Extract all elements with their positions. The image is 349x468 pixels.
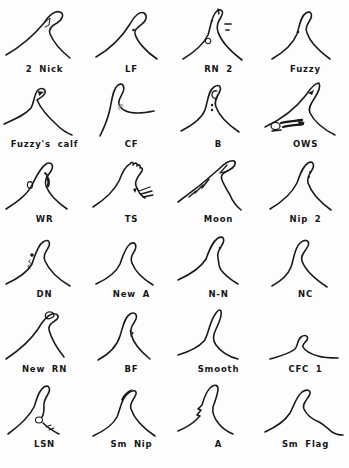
fin-cell: Fuzzy — [262, 4, 349, 79]
fin-label: N-N — [208, 289, 228, 299]
fin-sketch-sm-flag — [262, 379, 349, 439]
fin-cell: CFC 1 — [262, 304, 349, 379]
fin-sketch-bf — [88, 304, 175, 364]
fin-sketch-n-n — [175, 229, 262, 289]
fin-sketch-b — [175, 79, 262, 139]
fin-cell: Sm Nip — [88, 379, 175, 454]
fin-label: Fuzzy — [290, 64, 321, 74]
fin-grid: 2 Nick LF RN 2 Fuzzy Fuzzy's calf CF B O… — [0, 0, 349, 454]
fin-label: OWS — [293, 139, 318, 149]
fin-cell: Nip 2 — [262, 154, 349, 229]
fin-label: New A — [113, 289, 150, 299]
fin-label: LF — [125, 64, 138, 74]
fin-sketch-fuzzy — [262, 4, 349, 64]
fin-sketch-lf — [88, 4, 175, 64]
fin-sketch-sm-nip — [88, 379, 175, 439]
fin-label: NC — [298, 289, 313, 299]
fin-label: Smooth — [198, 364, 240, 374]
fin-cell: Fuzzy's calf — [1, 79, 88, 154]
fin-sketch-new-rn — [1, 304, 88, 364]
fin-label: Sm Nip — [111, 439, 153, 449]
fin-sketch-moon — [175, 154, 262, 214]
fin-sketch-a — [175, 379, 262, 439]
fin-label: Sm Flag — [282, 439, 329, 449]
fin-label: New RN — [22, 364, 67, 374]
fin-cell: A — [175, 379, 262, 454]
fin-sketch-new-a — [88, 229, 175, 289]
fin-cell: RN 2 — [175, 4, 262, 79]
fin-sketch-smooth — [175, 304, 262, 364]
fin-label: CFC 1 — [288, 364, 322, 374]
fin-cell: DN — [1, 229, 88, 304]
fin-catalog-figure: 2 Nick LF RN 2 Fuzzy Fuzzy's calf CF B O… — [0, 0, 349, 468]
fin-cell: Sm Flag — [262, 379, 349, 454]
fin-cell: OWS — [262, 79, 349, 154]
fin-cell: New A — [88, 229, 175, 304]
fin-label: TS — [125, 214, 139, 224]
fin-label: Fuzzy's calf — [11, 139, 78, 149]
fin-cell: N-N — [175, 229, 262, 304]
fin-sketch-lsn — [1, 379, 88, 439]
fin-cell: NC — [262, 229, 349, 304]
fin-sketch-nip-2 — [262, 154, 349, 214]
fin-cell: WR — [1, 154, 88, 229]
fin-sketch-ows — [262, 79, 349, 139]
fin-label: LSN — [34, 439, 55, 449]
fin-label: Moon — [204, 214, 233, 224]
fin-label: 2 Nick — [26, 64, 63, 74]
fin-sketch-cfc-1 — [262, 304, 349, 364]
fin-label: WR — [36, 214, 54, 224]
fin-cell: CF — [88, 79, 175, 154]
fin-sketch-wr — [1, 154, 88, 214]
fin-cell: New RN — [1, 304, 88, 379]
fin-label: B — [215, 139, 222, 149]
fin-sketch-fuzzys-calf — [1, 79, 88, 139]
fin-label: Nip 2 — [290, 214, 322, 224]
fin-cell: Moon — [175, 154, 262, 229]
fin-label: RN 2 — [204, 64, 233, 74]
fin-cell: TS — [88, 154, 175, 229]
fin-cell: LF — [88, 4, 175, 79]
fin-cell: LSN — [1, 379, 88, 454]
fin-label: DN — [37, 289, 53, 299]
fin-label: CF — [125, 139, 139, 149]
fin-sketch-cf — [88, 79, 175, 139]
fin-sketch-dn — [1, 229, 88, 289]
fin-cell: 2 Nick — [1, 4, 88, 79]
fin-sketch-2-nick — [1, 4, 88, 64]
fin-cell: B — [175, 79, 262, 154]
fin-sketch-ts — [88, 154, 175, 214]
fin-cell: BF — [88, 304, 175, 379]
fin-sketch-nc — [262, 229, 349, 289]
fin-label: A — [215, 439, 222, 449]
fin-sketch-rn-2 — [175, 4, 262, 64]
fin-label: BF — [125, 364, 139, 374]
fin-cell: Smooth — [175, 304, 262, 379]
